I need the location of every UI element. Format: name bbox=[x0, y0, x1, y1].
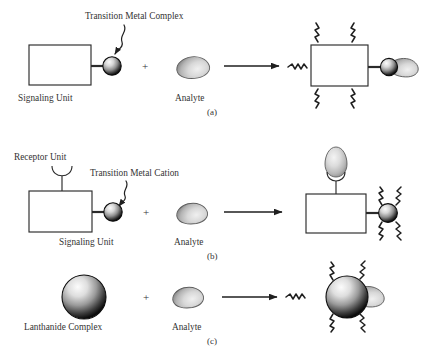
signaling-unit-box-b bbox=[29, 191, 92, 232]
transition-metal-sphere-b bbox=[104, 203, 122, 221]
panel-c: Lanthanide Complex + Analyte (c) bbox=[24, 261, 385, 346]
label-analyte-b: Analyte bbox=[174, 237, 203, 247]
panel-b: Receptor Unit Transition Metal Cation Si… bbox=[14, 147, 401, 261]
receptor-cup-b bbox=[52, 166, 72, 176]
emission-ray-a-3 bbox=[315, 89, 319, 108]
product-signaling-unit-box-a bbox=[311, 45, 368, 86]
emission-ray-c-2 bbox=[360, 261, 365, 279]
label-signaling-unit-b: Signaling Unit bbox=[59, 237, 114, 247]
analyte-shape-b bbox=[174, 198, 210, 230]
label-receptor-unit-b: Receptor Unit bbox=[14, 152, 67, 162]
figure-root: Transition Metal Complex Signaling Unit … bbox=[0, 0, 439, 358]
product-metal-sphere-a bbox=[380, 58, 397, 75]
emission-ray-b-1 bbox=[379, 187, 383, 205]
emission-ray-b-2 bbox=[396, 187, 401, 205]
plus-operator-c: + bbox=[143, 291, 149, 303]
emission-ray-a-1 bbox=[315, 23, 319, 42]
callout-arrow-b bbox=[119, 181, 127, 206]
plus-operator-b: + bbox=[143, 206, 149, 218]
signaling-unit-box-a bbox=[29, 45, 91, 85]
label-signaling-unit-a: Signaling Unit bbox=[18, 93, 73, 103]
emission-ray-c-1 bbox=[330, 262, 334, 280]
label-analyte-a: Analyte bbox=[175, 93, 204, 103]
panel-label-a: (a) bbox=[207, 107, 217, 117]
callout-arrow-a bbox=[115, 25, 125, 54]
analyte-shape-c bbox=[170, 282, 206, 314]
panel-label-c: (c) bbox=[207, 336, 217, 346]
excitation-ray-c bbox=[286, 294, 305, 299]
label-analyte-c: Analyte bbox=[172, 322, 201, 332]
panel-label-b: (b) bbox=[207, 251, 218, 261]
lanthanide-sphere-c bbox=[62, 275, 106, 319]
product-metal-sphere-b bbox=[379, 204, 398, 223]
product-lanthanide-sphere-c bbox=[326, 276, 368, 318]
plus-operator-a: + bbox=[142, 60, 148, 72]
transition-metal-sphere-a bbox=[103, 57, 121, 75]
analyte-shape-a bbox=[174, 51, 212, 84]
emission-ray-b-3 bbox=[379, 222, 383, 240]
emission-ray-a-4 bbox=[351, 89, 355, 108]
emission-ray-b-4 bbox=[396, 222, 401, 240]
excitation-ray-a bbox=[288, 64, 307, 69]
callout-label-transition-metal-complex: Transition Metal Complex bbox=[85, 11, 184, 21]
emission-ray-c-4 bbox=[360, 314, 365, 332]
captured-analyte-b bbox=[325, 147, 347, 177]
emission-ray-a-2 bbox=[351, 23, 355, 42]
emission-ray-c-3 bbox=[330, 314, 334, 332]
label-lanthanide-complex: Lanthanide Complex bbox=[24, 322, 103, 332]
panel-a: Transition Metal Complex Signaling Unit … bbox=[18, 11, 419, 117]
callout-label-transition-metal-cation: Transition Metal Cation bbox=[90, 168, 179, 178]
product-signaling-unit-box-b bbox=[306, 194, 366, 233]
schematic-svg: Transition Metal Complex Signaling Unit … bbox=[0, 0, 439, 358]
